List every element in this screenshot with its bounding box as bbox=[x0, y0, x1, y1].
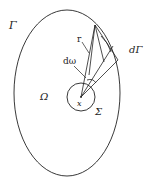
solid-angle-cone bbox=[81, 25, 118, 97]
solid-angle-label: dω bbox=[63, 56, 76, 66]
radius-leader bbox=[82, 42, 89, 53]
potential-theory-diagram: Γ r dω dΓ Ω x Σ bbox=[0, 0, 152, 181]
sphere-label: Σ bbox=[94, 106, 103, 117]
domain-label: Ω bbox=[39, 91, 48, 102]
point-label: x bbox=[77, 99, 82, 108]
boundary-element-label: dΓ bbox=[129, 44, 143, 55]
boundary-label: Γ bbox=[8, 19, 17, 32]
radius-label: r bbox=[77, 34, 82, 44]
point-x-dot bbox=[80, 96, 82, 98]
solid-angle-leader bbox=[74, 66, 86, 78]
outer-boundary-curve bbox=[14, 10, 120, 176]
